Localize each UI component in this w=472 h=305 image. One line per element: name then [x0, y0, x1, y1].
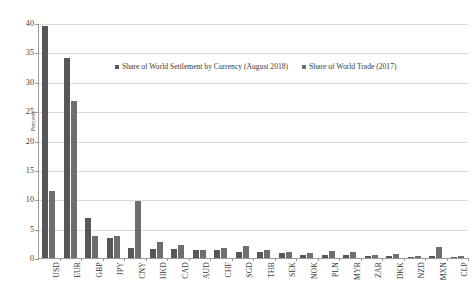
legend-item: Share of World Trade (2017): [302, 62, 396, 71]
x-tick-label: SGD: [245, 262, 254, 278]
bar: [107, 238, 113, 258]
bar-group: [339, 24, 361, 258]
x-tick-label: MYR: [353, 262, 362, 280]
bar-series-container: [38, 24, 468, 258]
x-tick-mark: [468, 258, 469, 261]
x-tick-label: JPY: [116, 262, 125, 275]
x-tick-mark: [275, 258, 276, 261]
bar: [128, 248, 134, 258]
bar-group: [146, 24, 168, 258]
y-tick-label: 25: [14, 108, 34, 116]
bar-group: [210, 24, 232, 258]
x-tick-mark: [210, 258, 211, 261]
x-tick-mark: [146, 258, 147, 261]
x-tick-mark: [404, 258, 405, 261]
legend-swatch: [115, 65, 119, 69]
x-tick-label: EUR: [73, 262, 82, 278]
bar: [171, 249, 177, 258]
bar: [307, 253, 313, 258]
bar: [451, 257, 457, 258]
bar: [243, 246, 249, 258]
bar: [415, 256, 421, 258]
x-tick-label: CAD: [181, 262, 190, 279]
bar: [350, 252, 356, 258]
x-tick-label: ZAR: [374, 262, 383, 278]
bar: [85, 218, 91, 258]
bar: [264, 250, 270, 258]
legend-label: Share of World Trade (2017): [309, 62, 396, 71]
bar: [300, 255, 306, 259]
x-tick-mark: [318, 258, 319, 261]
x-tick-label: GBP: [95, 262, 104, 277]
bar: [150, 249, 156, 258]
x-tick-mark: [60, 258, 61, 261]
x-tick-mark: [425, 258, 426, 261]
x-tick-mark: [253, 258, 254, 261]
x-tick-mark: [232, 258, 233, 261]
bar-group: [103, 24, 125, 258]
x-tick-label: MXN: [439, 262, 448, 280]
x-tick-mark: [447, 258, 448, 261]
y-tick-label: 35: [14, 49, 34, 57]
y-tick-label: 20: [14, 137, 34, 145]
bar: [436, 247, 442, 258]
x-axis-tick-labels: USDEURGBPJPYCNYHKDCADAUDCHFSGDTHBSEKNOKP…: [38, 262, 468, 305]
bar: [178, 245, 184, 258]
bar-group: [38, 24, 60, 258]
x-tick-mark: [189, 258, 190, 261]
bar-group: [232, 24, 254, 258]
bar: [408, 257, 414, 258]
bar: [365, 256, 371, 258]
x-tick-label: HKD: [159, 262, 168, 279]
bar-group: [81, 24, 103, 258]
bar: [214, 250, 220, 258]
x-tick-mark: [296, 258, 297, 261]
x-tick-mark: [339, 258, 340, 261]
bar: [257, 252, 263, 258]
bar-group: [253, 24, 275, 258]
bar: [322, 255, 328, 259]
x-tick-label: AUD: [202, 262, 211, 279]
bar-group: [167, 24, 189, 258]
x-tick-label: CLP: [460, 262, 469, 277]
bar: [135, 201, 141, 258]
bar-group: [60, 24, 82, 258]
bar: [458, 256, 464, 258]
bar: [372, 255, 378, 258]
x-tick-mark: [124, 258, 125, 261]
plot-area: [38, 24, 468, 259]
bar-group: [124, 24, 146, 258]
x-tick-label: DKK: [396, 262, 405, 279]
y-tick-label: 10: [14, 196, 34, 204]
bar: [92, 236, 98, 258]
y-tick-label: 5: [14, 226, 34, 234]
legend-swatch: [302, 65, 306, 69]
bar-group: [404, 24, 426, 258]
bar: [236, 252, 242, 258]
bar: [343, 255, 349, 258]
legend-item: Share of World Settlement by Currency (A…: [115, 62, 288, 71]
x-tick-label: NZD: [417, 262, 426, 278]
bar-chart: Percent 0510152025303540 USDEURGBPJPYCNY…: [0, 0, 472, 305]
y-tick-label: 0: [14, 255, 34, 263]
y-tick-label: 40: [14, 20, 34, 28]
x-tick-mark: [361, 258, 362, 261]
bar: [286, 252, 292, 258]
bar: [71, 101, 77, 258]
bar-group: [318, 24, 340, 258]
bar: [429, 256, 435, 258]
bar-group: [382, 24, 404, 258]
x-tick-label: NOK: [310, 262, 319, 279]
bar: [64, 58, 70, 258]
x-tick-mark: [382, 258, 383, 261]
x-tick-label: PLN: [331, 262, 340, 277]
bar-group: [361, 24, 383, 258]
bar: [279, 253, 285, 258]
x-tick-mark: [81, 258, 82, 261]
bar-group: [296, 24, 318, 258]
chart-legend: Share of World Settlement by Currency (A…: [115, 62, 397, 71]
x-tick-label: CHF: [224, 262, 233, 277]
y-axis-tick-labels: 0510152025303540: [12, 0, 34, 305]
bar: [193, 250, 199, 258]
bar: [42, 26, 48, 258]
